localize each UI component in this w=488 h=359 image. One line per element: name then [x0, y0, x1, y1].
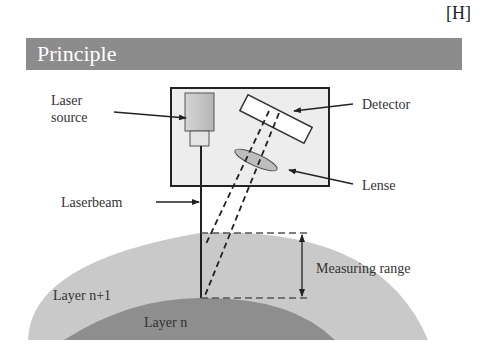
- principle-diagram: [0, 0, 488, 359]
- laser-source-nozzle: [190, 131, 209, 146]
- label-detector: Detector: [362, 96, 410, 113]
- laser-source-body: [185, 93, 214, 131]
- label-measuring-range: Measuring range: [316, 260, 410, 277]
- label-layer-n-plus-1: Layer n+1: [53, 287, 111, 304]
- label-layer-n: Layer n: [144, 314, 187, 331]
- label-laser-source: Laser source: [51, 92, 88, 126]
- label-laserbeam: Laserbeam: [61, 194, 122, 211]
- label-lense: Lense: [362, 177, 395, 194]
